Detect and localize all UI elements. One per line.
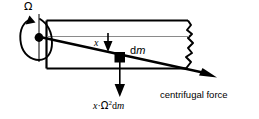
x-dimension-down-arrow (104, 33, 113, 52)
x-distance-label: x (94, 38, 98, 48)
force-formula-label: x·Ω2dm (93, 101, 124, 111)
diagram-svg (0, 0, 259, 119)
jagged-break-edge (186, 21, 193, 69)
vertical-force-down-arrow (115, 62, 125, 97)
mass-element-square (115, 52, 126, 63)
figure-canvas: Ω x dm x·Ω2dm centrifugal force (0, 0, 259, 119)
dm-italic-m: m (136, 44, 145, 56)
omega-label: Ω (24, 1, 32, 12)
formula-m: m (117, 100, 124, 111)
diagonal-force-arrow (40, 37, 217, 78)
dm-label: dm (130, 45, 145, 56)
centrifugal-force-label: centrifugal force (160, 90, 228, 100)
